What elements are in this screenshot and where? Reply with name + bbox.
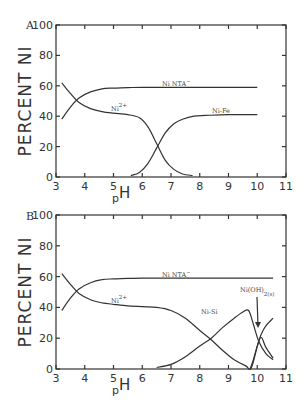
label-ni2-a: Ni2+: [111, 102, 127, 113]
x-tick-label: 8: [196, 372, 203, 385]
x-tick-label: 6: [139, 180, 146, 193]
y-tick-label: 100: [32, 19, 53, 32]
y-axis-label-b: PERCENT NI: [15, 237, 35, 348]
y-tick-label: 0: [46, 363, 53, 376]
y-tick-label: 100: [32, 209, 53, 222]
series-line-ni-nta-: [62, 278, 273, 310]
x-tick-label: 7: [168, 180, 175, 193]
chart-panel-a: A 34567891011020406080100 PERCENT NI pH …: [15, 19, 293, 205]
y-tick-label: 20: [39, 332, 53, 345]
x-tick-label: 9: [225, 180, 232, 193]
x-tick-label: 4: [81, 372, 88, 385]
x-tick-label: 3: [53, 180, 60, 193]
x-tick-label: 11: [279, 372, 293, 385]
series-line-ni-si: [157, 310, 274, 368]
y-tick-label: 80: [39, 49, 53, 62]
chart-panel-b: B 34567891011020406080100 PERCENT NI pH …: [15, 209, 293, 397]
y-tick-label: 40: [39, 301, 53, 314]
x-tick-label: 10: [250, 180, 264, 193]
figure: A 34567891011020406080100 PERCENT NI pH …: [0, 0, 304, 415]
x-tick-label: 7: [168, 372, 175, 385]
x-tick-label: 6: [139, 372, 146, 385]
y-tick-label: 60: [39, 271, 53, 284]
x-tick-label: 8: [196, 180, 203, 193]
label-ni-nta-a: Ni NTA−: [162, 78, 190, 88]
x-tick-label: 3: [53, 372, 60, 385]
y-tick-label: 0: [46, 171, 53, 184]
arrow-head-icon: [255, 322, 261, 328]
x-tick-label: 10: [250, 372, 264, 385]
curves-a: [62, 83, 257, 176]
label-ni2-b: Ni2+: [111, 294, 127, 305]
x-tick-label: 9: [225, 372, 232, 385]
label-ni-nta-b: Ni NTA−: [162, 269, 190, 279]
y-tick-label: 80: [39, 240, 53, 253]
label-ni-si-b: Ni-Si: [201, 308, 218, 316]
y-tick-label: 40: [39, 110, 53, 123]
series-line-ni-fe: [131, 115, 257, 176]
arrow-ni-oh2: [257, 297, 258, 326]
y-tick-label: 20: [39, 141, 53, 154]
y-axis-label-a: PERCENT NI: [15, 46, 35, 157]
y-tick-label: 60: [39, 80, 53, 93]
x-tick-label: 11: [279, 180, 293, 193]
x-tick-label: 4: [81, 180, 88, 193]
label-ni-fe-a: Ni-Fe: [212, 107, 230, 115]
plot-frame-a: [56, 25, 286, 177]
label-ni-oh2-b: Ni(OH)2(s): [240, 286, 274, 297]
